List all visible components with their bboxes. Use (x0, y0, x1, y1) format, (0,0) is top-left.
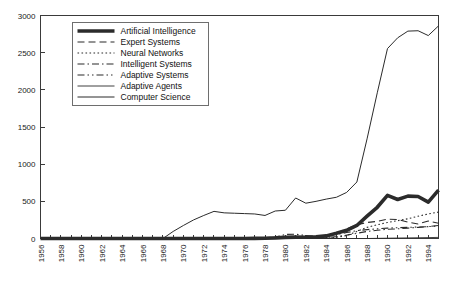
x-tick-label: 1970 (179, 244, 188, 262)
y-tick-label: 500 (22, 197, 36, 206)
x-tick-label: 1994 (424, 244, 433, 262)
x-tick-label: 1986 (343, 244, 352, 262)
line-chart: 050010001500200025003000 195619581960196… (0, 0, 453, 293)
legend-label[interactable]: Intelligent Systems (121, 59, 192, 69)
x-tick-label: 1982 (302, 244, 311, 262)
legend-label[interactable]: Neural Networks (121, 48, 184, 58)
y-tick-label: 2500 (18, 49, 36, 58)
x-tick-label: 1984 (322, 244, 331, 262)
x-tick-label: 1988 (363, 244, 372, 262)
x-tick-label: 1978 (261, 244, 270, 262)
chart-container: 050010001500200025003000 195619581960196… (0, 0, 453, 293)
legend-label[interactable]: Artificial Intelligence (121, 26, 196, 36)
legend-label[interactable]: Adaptive Systems (121, 70, 189, 80)
x-tick-label: 1980 (281, 244, 290, 262)
y-tick-label: 2000 (18, 86, 36, 95)
x-tick-label: 1960 (77, 244, 86, 262)
x-tick-label: 1990 (383, 244, 392, 262)
x-tick-label: 1968 (159, 244, 168, 262)
x-tick-label: 1962 (98, 244, 107, 262)
y-tick-label: 3000 (18, 12, 36, 21)
y-tick-label: 1500 (18, 123, 36, 132)
x-tick-label: 1974 (220, 244, 229, 262)
legend-label[interactable]: Adaptive Agents (121, 81, 182, 91)
chart-legend[interactable]: Artificial IntelligenceExpert SystemsNeu… (73, 23, 209, 106)
x-tick-label: 1976 (241, 244, 250, 262)
x-tick-label: 1958 (57, 244, 66, 262)
x-tick-label: 1992 (404, 244, 413, 262)
x-tick-label: 1966 (139, 244, 148, 262)
legend-label[interactable]: Computer Science (121, 92, 191, 102)
x-tick-label: 1956 (37, 244, 46, 262)
x-tick-label: 1972 (200, 244, 209, 262)
y-tick-label: 1000 (18, 160, 36, 169)
y-tick-label: 0 (31, 235, 36, 244)
x-tick-label: 1964 (118, 244, 127, 262)
legend-label[interactable]: Expert Systems (121, 37, 181, 47)
